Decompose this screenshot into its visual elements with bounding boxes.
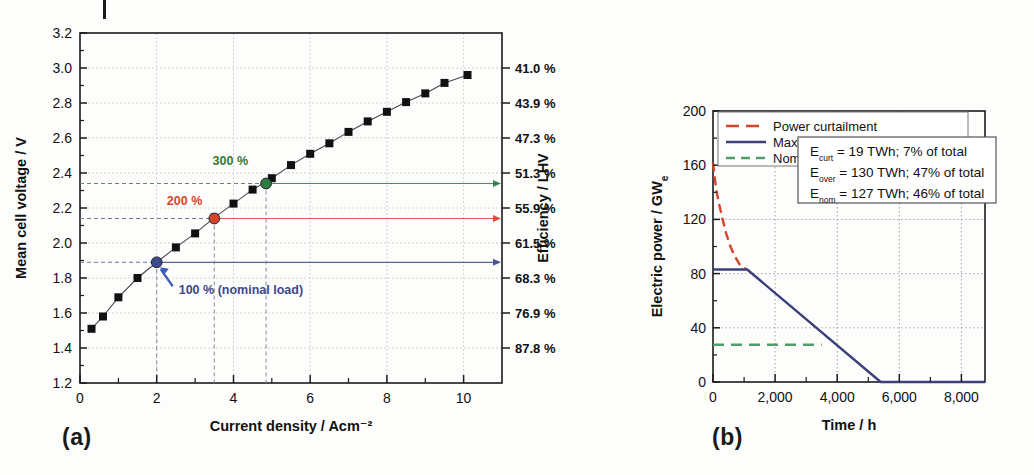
y-tick-label: 2.6 — [53, 130, 73, 146]
x-axis-title-b: Time / h — [822, 417, 877, 433]
y-tick-label: 0 — [698, 374, 706, 390]
data-point-marker — [88, 325, 96, 333]
annotation-label-100: 100 % (nominal load) — [179, 283, 303, 297]
energy-summary-box: Ecurt = 19 TWh; 7% of totalEover = 130 T… — [798, 137, 996, 205]
data-point-marker — [134, 274, 142, 282]
series-power-curtailment — [713, 163, 747, 270]
data-point-marker — [441, 79, 449, 87]
data-point-marker — [464, 71, 472, 79]
y-tick-label: 3.0 — [53, 60, 73, 76]
panel-a-chart: 1.21.41.61.82.02.22.42.62.83.03.20246810… — [0, 15, 560, 445]
y-tick-label: 2.4 — [53, 165, 73, 181]
panel-a-label: (a) — [62, 424, 92, 451]
data-point-marker — [172, 243, 180, 251]
data-point-marker — [306, 150, 314, 158]
efficiency-tick-label: 41.0 % — [515, 61, 556, 76]
annotation-label-300: 300 % — [213, 154, 248, 168]
x-axis-b: 02,0004,0006,0008,000 — [709, 374, 979, 405]
panel-b-chart: 0408012016020002,0004,0006,0008,000Elect… — [640, 15, 1034, 445]
x-tick-label: 6 — [306, 390, 314, 406]
x-axis-title-a: Current density / Acm⁻² — [210, 418, 373, 434]
y-tick-label: 2.8 — [53, 95, 73, 111]
y-tick-label: 1.6 — [53, 305, 73, 321]
load-point-100 — [151, 257, 162, 268]
y-axis-title-b: Electric power / GWe — [649, 175, 670, 317]
legend-label: Power curtailment — [773, 119, 877, 134]
efficiency-tick-label: 43.9 % — [515, 96, 556, 111]
data-point-marker — [230, 200, 238, 208]
pointer-arrow-icon — [161, 269, 173, 286]
arrow-head-icon — [493, 215, 501, 222]
x-tick-label: 2,000 — [758, 389, 793, 405]
x-tick-label: 0 — [76, 390, 84, 406]
y-axis-title-a: Mean cell voltage / V — [13, 137, 29, 279]
series-maximum-electrolysis-power — [713, 270, 985, 383]
y-tick-label: 1.8 — [53, 270, 73, 286]
y-axis-a: 1.21.41.61.82.02.22.42.62.83.03.2 — [53, 25, 87, 391]
data-point-marker — [383, 108, 391, 116]
efficiency-tick-label: 68.3 % — [515, 271, 556, 286]
x-tick-label: 4 — [230, 390, 238, 406]
data-point-marker — [402, 98, 410, 106]
efficiency-tick-label: 47.3 % — [515, 131, 556, 146]
y-tick-label: 1.4 — [53, 340, 73, 356]
load-point-200 — [209, 213, 220, 224]
y-axis-title-right-a: Efficiency / LHV — [535, 153, 551, 263]
x-tick-label: 6,000 — [882, 389, 917, 405]
x-tick-label: 10 — [456, 390, 472, 406]
y-tick-label: 160 — [683, 157, 707, 173]
data-point-marker — [249, 186, 257, 194]
panel-b-label: (b) — [712, 424, 743, 451]
data-point-marker — [364, 117, 372, 125]
x-tick-label: 8 — [383, 390, 391, 406]
data-point-marker — [114, 293, 122, 301]
y-tick-label: 2.2 — [53, 200, 73, 216]
y-tick-label: 120 — [683, 211, 707, 227]
y-tick-label: 2.0 — [53, 235, 73, 251]
arrow-head-icon — [493, 180, 501, 187]
data-point-marker — [325, 139, 333, 147]
y-tick-label: 1.2 — [53, 375, 73, 391]
figure-root: 1.21.41.61.82.02.22.42.62.83.03.20246810… — [0, 0, 1034, 475]
x-axis-a: 0246810 — [76, 375, 471, 406]
load-point-300 — [261, 178, 272, 189]
efficiency-tick-label: 76.9 % — [515, 306, 556, 321]
arrow-head-icon — [493, 259, 501, 266]
y-tick-label: 80 — [690, 266, 706, 282]
data-point-marker — [287, 161, 295, 169]
x-tick-label: 0 — [709, 389, 717, 405]
x-tick-label: 2 — [153, 390, 161, 406]
y-axis-b: 04080120160200 — [683, 103, 720, 390]
data-point-marker — [345, 128, 353, 136]
y-tick-label: 200 — [683, 103, 707, 119]
data-point-marker — [191, 229, 199, 237]
efficiency-tick-label: 87.8 % — [515, 341, 556, 356]
data-point-marker — [421, 89, 429, 97]
x-tick-label: 8,000 — [944, 389, 979, 405]
data-point-marker — [99, 313, 107, 321]
y-tick-label: 3.2 — [53, 25, 73, 41]
y-tick-label: 40 — [690, 320, 706, 336]
x-tick-label: 4,000 — [820, 389, 855, 405]
annotation-label-200: 200 % — [167, 194, 202, 208]
load-annotations-a — [80, 180, 501, 383]
